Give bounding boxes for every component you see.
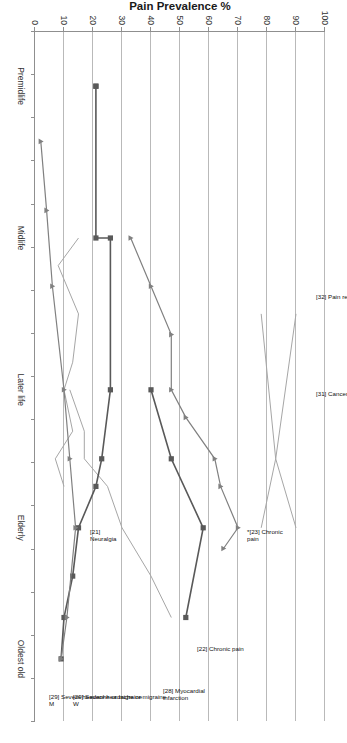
- series-pain-related-advanced-disease: [261, 314, 296, 528]
- annotation-pain-related-advanced-disease: [32] Pain related to advanced disease: [316, 293, 347, 300]
- value-axis-tick-label: 60: [204, 16, 214, 25]
- series-line: [55, 238, 78, 486]
- value-axis-tick-label: 10: [59, 16, 69, 25]
- series-marker: [93, 235, 98, 240]
- value-axis-tick-label: 40: [146, 16, 156, 25]
- series-line: [41, 141, 76, 659]
- rotated-figure-wrapper: Pain Prevalence % 0102030405060708090100…: [0, 0, 347, 743]
- annotation-chronic-pain-23: *[23] Chronic pain: [247, 528, 283, 543]
- series-marker: [99, 456, 104, 461]
- series-severe-headache-migraine-w: [59, 84, 114, 662]
- value-axis-tick-label: 50: [175, 16, 185, 25]
- annotation-myocardial-infarction: [28] Myocardial infarction: [163, 687, 205, 702]
- series-marker: [169, 456, 174, 461]
- series-marker: [93, 84, 98, 89]
- value-axis-tick-label: 80: [262, 16, 272, 25]
- series-line: [61, 86, 110, 659]
- plot-area: 0102030405060708090100 PremidlifeMidlife…: [35, 31, 325, 721]
- series-severe-headache-migraine-m: [39, 139, 79, 662]
- value-axis-title-text: Pain Prevalence %: [129, 0, 231, 12]
- annotation-cancer-pain: [31] Cancer pain: [316, 390, 347, 397]
- series-marker: [108, 235, 113, 240]
- category-axis-label: Oldest old: [16, 640, 26, 678]
- category-axis-label: Midlife: [16, 226, 26, 251]
- series-marker: [201, 525, 206, 530]
- series-myocardial-infarction: [70, 390, 172, 618]
- value-axis-title: Pain Prevalence %: [35, 0, 325, 14]
- category-axis-label: Premidlife: [16, 67, 26, 105]
- value-axis-tick-label: 30: [117, 16, 127, 25]
- category-axis-label: Later life: [16, 373, 26, 406]
- series-marker: [236, 525, 241, 531]
- category-axis-label: Elderly: [16, 515, 26, 541]
- chart-figure: Pain Prevalence % 0102030405060708090100…: [0, 0, 347, 743]
- annotation-severe-headache-migraine-m: [29] Severe headache or migraine M: [50, 693, 143, 708]
- value-axis-tick-label: 100: [320, 11, 330, 25]
- series-line: [70, 390, 172, 618]
- series-line: [261, 314, 296, 528]
- value-axis-tick-label: 20: [88, 16, 98, 25]
- series-chronic-pain-23: [129, 235, 241, 551]
- series-line: [131, 238, 238, 549]
- value-axis-tick-label: 70: [233, 16, 243, 25]
- series-neuralgia: [55, 238, 78, 486]
- series-cancer-pain: [261, 314, 296, 528]
- series-line: [261, 314, 296, 528]
- series-lines: [35, 31, 325, 721]
- annotation-chronic-pain-22: [22] Chronic pain: [197, 645, 244, 652]
- series-marker: [148, 387, 153, 392]
- category-axis-tick: [31, 721, 35, 722]
- series-line: [151, 390, 203, 618]
- value-axis-tick-label: 0: [30, 20, 40, 25]
- series-marker: [183, 615, 188, 620]
- series-chronic-pain-22: [148, 387, 205, 620]
- series-marker: [93, 484, 98, 489]
- series-marker: [108, 387, 113, 392]
- annotation-neuralgia: [21] Neuralgia: [90, 528, 116, 543]
- value-axis-tick-label: 90: [291, 16, 301, 25]
